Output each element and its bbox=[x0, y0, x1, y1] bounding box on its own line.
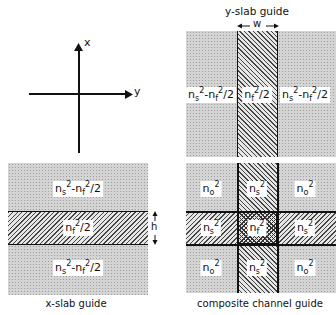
x-slab-top-label: ns2-nf2/2 bbox=[53, 181, 103, 197]
composite-core-label: nf2 bbox=[248, 220, 267, 236]
composite-label: no2 bbox=[295, 260, 316, 276]
composite-label: ns2 bbox=[201, 220, 221, 236]
height-label: h bbox=[151, 221, 157, 232]
y-slab-left-label: ns2-nf2/2 bbox=[186, 87, 236, 103]
composite-grid-line bbox=[277, 163, 279, 293]
y-axis-line bbox=[29, 93, 127, 95]
width-label: w bbox=[253, 18, 261, 29]
x-axis-line bbox=[78, 48, 80, 153]
y-slab-right-label: ns2-nf2/2 bbox=[280, 87, 330, 103]
composite-grid-line bbox=[186, 244, 336, 246]
composite-caption: composite channel guide bbox=[197, 298, 323, 309]
y-slab-title: y-slab guide bbox=[225, 5, 289, 17]
width-dimension: w bbox=[237, 19, 279, 31]
y-slab-core-label: nf2/2 bbox=[242, 87, 272, 103]
composite-label: ns2 bbox=[247, 181, 267, 197]
composite-label: no2 bbox=[201, 260, 222, 276]
composite-grid-line bbox=[237, 163, 239, 293]
x-axis-label: x bbox=[84, 36, 91, 49]
composite-label: ns2 bbox=[247, 260, 267, 276]
height-dimension: h bbox=[150, 211, 164, 245]
x-slab-core-label: nf2/2 bbox=[63, 220, 93, 236]
composite-grid-line bbox=[186, 211, 336, 213]
x-axis-arrow-icon bbox=[74, 43, 83, 51]
y-axis-label: y bbox=[134, 85, 141, 98]
composite-label: no2 bbox=[295, 181, 316, 197]
y-axis-arrow-icon bbox=[125, 90, 133, 99]
composite-label: ns2 bbox=[295, 220, 315, 236]
composite-label: no2 bbox=[201, 181, 222, 197]
x-slab-bottom-label: ns2-nf2/2 bbox=[53, 260, 103, 276]
x-slab-caption: x-slab guide bbox=[45, 298, 106, 309]
